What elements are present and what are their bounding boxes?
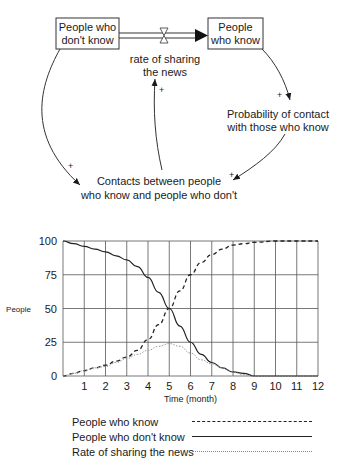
polarity-sign: + [229, 170, 234, 180]
link-dontknow-to-contacts [42, 49, 80, 185]
flow-label: the news [143, 66, 188, 78]
line-chart: 0255075100123456789101112Time (month)Peo… [6, 235, 324, 404]
aux-probability-label: Probability of contact [227, 108, 329, 120]
polarity-sign: + [277, 90, 282, 100]
legend-item-rate-of-sharing: Rate of sharing the news [72, 444, 312, 459]
legend-label: People who don't know [72, 431, 182, 443]
dotted-line-swatch [192, 451, 312, 452]
stock-label: don't know [61, 34, 113, 46]
aux-contacts-label: Contacts between people [97, 175, 221, 187]
polarity-sign: + [68, 161, 73, 171]
x-tick-label: 6 [187, 380, 193, 392]
x-tick-label: 4 [145, 380, 151, 392]
stock-label: People who [59, 21, 117, 33]
x-tick-label: 12 [312, 380, 324, 392]
solid-line-swatch [192, 436, 312, 437]
legend-label: Rate of sharing the news [72, 446, 182, 458]
y-tick-label: 100 [39, 235, 57, 247]
stock-label: People [218, 21, 252, 33]
y-tick-label: 75 [45, 269, 57, 281]
figure: People who don't know People who know ra… [0, 0, 346, 468]
x-tick-label: 2 [102, 380, 108, 392]
y-tick-label: 0 [51, 370, 57, 382]
aux-probability-label: with those who know [226, 121, 329, 133]
x-tick-label: 10 [269, 380, 281, 392]
stock-label: who know [210, 34, 260, 46]
legend-item-people-who-dont-know: People who don't know [72, 429, 312, 444]
aux-contacts-label: who know and people who don't [80, 189, 237, 201]
x-axis-label: Time (month) [164, 394, 217, 404]
link-know-to-probability [262, 49, 290, 100]
x-tick-label: 8 [230, 380, 236, 392]
x-tick-label: 5 [166, 380, 172, 392]
link-probability-to-contacts [233, 134, 285, 180]
x-tick-label: 7 [209, 380, 215, 392]
valve-icon [160, 28, 168, 43]
stock-flow-diagram: People who don't know People who know ra… [0, 0, 346, 468]
legend-item-people-who-know: People who know [72, 414, 312, 429]
y-axis-label: People [6, 305, 31, 314]
dashed-line-swatch [192, 421, 312, 422]
x-tick-label: 9 [251, 380, 257, 392]
x-tick-label: 3 [124, 380, 130, 392]
legend-label: People who know [72, 416, 182, 428]
flow-label: rate of sharing [130, 53, 200, 65]
chart-legend: People who know People who don't know Ra… [72, 414, 312, 459]
polarity-sign: + [159, 85, 164, 95]
x-tick-label: 1 [81, 380, 87, 392]
y-tick-label: 25 [45, 336, 57, 348]
x-tick-label: 11 [291, 380, 302, 392]
y-tick-label: 50 [45, 303, 57, 315]
